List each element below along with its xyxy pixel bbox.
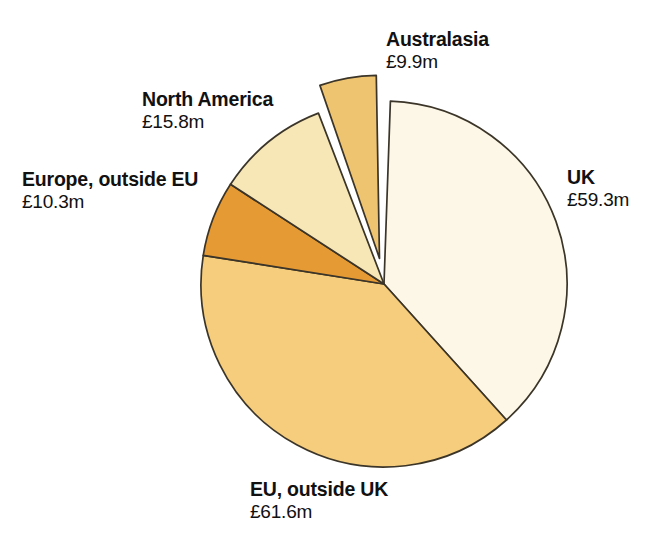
slice-label-uk-name: UK xyxy=(567,166,629,189)
slice-label-eu-outside-uk-name: EU, outside UK xyxy=(250,478,388,501)
pie-chart: was only twothe figureand a numberwas th… xyxy=(0,0,667,555)
slice-label-europe-outside-eu-value: £10.3m xyxy=(22,191,198,213)
slice-label-north-america-value: £15.8m xyxy=(142,111,273,133)
slice-label-north-america: North America £15.8m xyxy=(142,88,273,133)
pie-graphic xyxy=(0,0,667,555)
slice-label-north-america-name: North America xyxy=(142,88,273,111)
slice-label-eu-outside-uk: EU, outside UK £61.6m xyxy=(250,478,388,523)
slice-label-europe-outside-eu-name: Europe, outside EU xyxy=(22,168,198,191)
slice-label-australasia-value: £9.9m xyxy=(386,51,489,73)
slice-label-europe-outside-eu: Europe, outside EU £10.3m xyxy=(22,168,198,213)
slice-label-uk-value: £59.3m xyxy=(567,189,629,211)
slice-label-eu-outside-uk-value: £61.6m xyxy=(250,501,388,523)
slice-label-australasia-name: Australasia xyxy=(386,28,489,51)
slice-label-uk: UK £59.3m xyxy=(567,166,629,211)
slice-label-australasia: Australasia £9.9m xyxy=(386,28,489,73)
